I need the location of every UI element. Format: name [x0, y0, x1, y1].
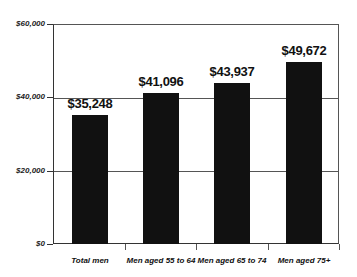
x-tick [339, 244, 340, 250]
bar-men-55-64 [143, 93, 179, 244]
value-label-men-55-64: $41,096 [125, 74, 197, 89]
bar-men-75-plus [286, 62, 322, 244]
x-tick [125, 244, 126, 250]
value-label-total-men: $35,248 [54, 96, 126, 111]
x-tick [268, 244, 269, 250]
y-tick-20000: $20,000 [0, 166, 53, 175]
bar-total-men [72, 115, 108, 244]
bar-men-65-74 [214, 83, 250, 244]
x-tick [196, 244, 197, 250]
value-label-men-75-plus: $49,672 [268, 43, 340, 58]
y-tick-40000: $40,000 [0, 92, 53, 101]
x-label-men-75-plus: Men aged 75+ [268, 256, 340, 265]
y-tick-60000: $60,000 [0, 19, 53, 28]
x-label-men-55-64: Men aged 55 to 64 [125, 256, 197, 265]
x-label-men-65-74: Men aged 65 to 74 [196, 256, 268, 265]
y-tick-0: $0 [0, 239, 53, 248]
x-label-total-men: Total men [54, 256, 126, 265]
value-label-men-65-74: $43,937 [196, 64, 268, 79]
